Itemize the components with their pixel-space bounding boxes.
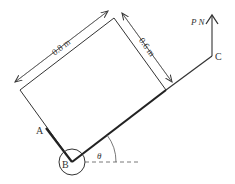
label-force: P N <box>190 17 206 27</box>
label-c: C <box>215 51 222 62</box>
label-length-long: 0.8 m <box>50 37 72 57</box>
angle-arc <box>107 135 116 162</box>
rod-to-c <box>166 56 212 90</box>
edge-ab-thick <box>46 128 72 162</box>
label-angle: θ <box>97 151 102 161</box>
label-a: A <box>36 125 44 136</box>
lamina-diagram: 0.8 m 0.6 m A B C P N θ <box>0 0 235 184</box>
label-length-short: 0.6 m <box>137 36 157 58</box>
edge-bc-thick <box>72 90 166 162</box>
label-b: B <box>62 159 69 170</box>
